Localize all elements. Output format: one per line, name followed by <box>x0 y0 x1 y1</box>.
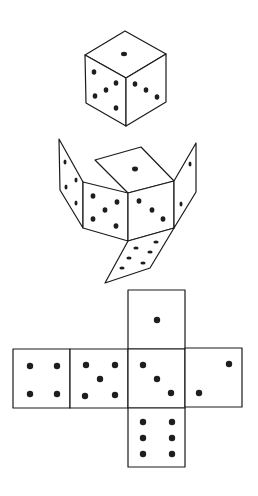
pip <box>114 223 119 228</box>
pip <box>54 391 60 397</box>
pip <box>137 198 142 203</box>
pip <box>196 390 202 396</box>
pip <box>189 161 192 166</box>
pip <box>169 419 175 425</box>
pip <box>65 184 68 189</box>
pip <box>133 81 138 87</box>
pip <box>119 266 124 269</box>
pip <box>161 216 166 221</box>
pip <box>154 376 160 382</box>
unfolding-die <box>59 139 196 283</box>
pip <box>91 216 96 221</box>
pip <box>103 207 108 212</box>
pip <box>155 94 160 100</box>
pip <box>27 363 33 369</box>
flat-net <box>13 290 242 467</box>
left-flap-face <box>59 139 83 228</box>
pip <box>104 87 109 93</box>
pip <box>226 361 232 367</box>
die-diagram <box>0 0 258 496</box>
pip <box>75 177 78 182</box>
pip <box>132 167 138 172</box>
pip <box>83 362 89 368</box>
pip <box>112 362 118 368</box>
right-flap-face <box>174 143 196 228</box>
pip <box>150 207 155 212</box>
net-face-four <box>13 349 70 408</box>
pip <box>115 199 120 204</box>
pip <box>140 419 146 425</box>
pip <box>153 240 158 243</box>
pip <box>91 193 96 198</box>
pip <box>126 256 131 259</box>
pip <box>140 261 145 264</box>
pip <box>140 435 146 441</box>
pip <box>154 317 160 323</box>
pip <box>64 159 67 164</box>
net-face-two <box>185 348 242 407</box>
pip <box>93 93 98 99</box>
pip <box>75 200 78 205</box>
pip <box>140 451 146 457</box>
pip <box>121 52 127 56</box>
pip <box>180 201 183 206</box>
pip <box>82 393 88 399</box>
pip <box>114 80 119 86</box>
pip <box>54 363 60 369</box>
pip <box>140 362 146 368</box>
pip <box>112 392 118 398</box>
pip <box>92 69 97 75</box>
pip <box>168 390 174 396</box>
pip <box>169 435 175 441</box>
pip <box>133 246 138 249</box>
pip <box>147 250 152 253</box>
net-bottom-face <box>128 408 185 467</box>
pip <box>114 105 119 111</box>
pip <box>169 451 175 457</box>
pip <box>144 87 149 93</box>
pip <box>97 376 103 382</box>
pip <box>27 391 33 397</box>
assembled-die <box>85 31 166 126</box>
